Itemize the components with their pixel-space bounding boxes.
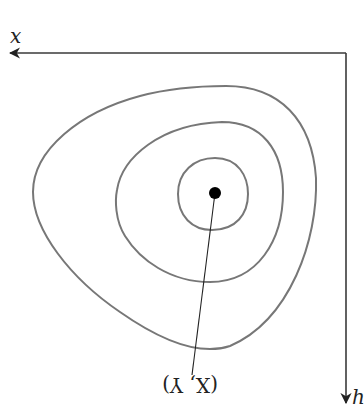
x-axis-label: x [10,24,21,48]
leader-line [192,193,215,375]
contour-middle [116,122,283,282]
contour-outer [33,86,316,349]
contour-diagram: x h (X, Y) [0,0,364,417]
center-point [209,187,221,199]
center-point-label: (X, Y) [162,373,218,397]
h-axis-label: h [352,385,364,409]
